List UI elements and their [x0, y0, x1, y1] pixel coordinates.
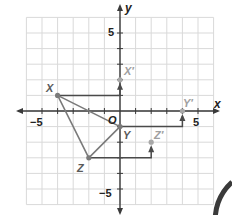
- origin-label: O: [108, 114, 117, 126]
- translation-paths: [58, 83, 186, 158]
- decorative-arc: [215, 182, 232, 215]
- axes: [16, 4, 220, 215]
- coordinate-plane: x y O −5 5 5 −5 X Y Z X′ Y′ Z′: [0, 0, 232, 215]
- point-label-y: Y: [123, 129, 132, 141]
- x-tick-label-neg5: −5: [30, 116, 43, 128]
- arrow-up-icon: [117, 83, 123, 90]
- preimage-point: [86, 155, 91, 160]
- y-tick-label-5: 5: [108, 26, 114, 38]
- x-axis-arrow-left-icon: [16, 108, 23, 114]
- y-axis-arrow-down-icon: [117, 208, 123, 215]
- image-point: [117, 77, 122, 82]
- coordinate-plane-figure: x y O −5 5 5 −5 X Y Z X′ Y′ Z′: [0, 0, 232, 215]
- x-axis-label: x: [213, 97, 222, 111]
- point-label-x: X: [45, 82, 54, 94]
- labels: x y O −5 5 5 −5 X Y Z X′ Y′ Z′: [30, 1, 222, 199]
- y-axis-label: y: [124, 1, 133, 15]
- point-label-z: Z: [76, 162, 85, 174]
- preimage-point: [117, 124, 122, 129]
- x-tick-label-5: 5: [193, 116, 199, 128]
- y-tick-label-neg5: −5: [99, 187, 112, 199]
- point-label-z-prime: Z′: [153, 129, 165, 141]
- point-label-x-prime: X′: [123, 65, 135, 77]
- y-axis-arrow-up-icon: [117, 4, 123, 11]
- arrow-up-icon: [179, 114, 185, 121]
- preimage-point: [55, 93, 60, 98]
- arrow-up-icon: [148, 145, 154, 152]
- point-label-y-prime: Y′: [183, 97, 194, 109]
- image-point: [180, 108, 185, 113]
